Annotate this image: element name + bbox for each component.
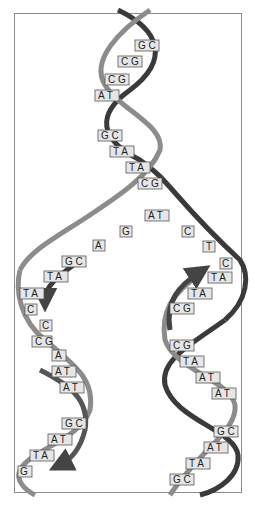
svg-text:C: C: [27, 304, 34, 315]
base-pair: A T: [48, 434, 72, 445]
svg-text:G: G: [122, 226, 130, 237]
svg-text:T A: T A: [47, 271, 62, 282]
svg-text:A T: A T: [55, 366, 70, 377]
parent-base-pairs: G C C G C G A T G C T A T A C G A T: [95, 40, 169, 221]
svg-text:A T: A T: [215, 388, 230, 399]
base-pair: G C: [98, 130, 122, 141]
base-pair: T A: [30, 450, 54, 461]
svg-text:T A: T A: [129, 162, 144, 173]
base-pair: G C: [62, 256, 86, 267]
svg-text:G C: G C: [138, 40, 156, 51]
svg-text:C: C: [184, 226, 191, 237]
svg-text:C G: C G: [173, 340, 191, 351]
svg-text:A: A: [55, 350, 62, 361]
svg-text:G C: G C: [65, 256, 83, 267]
svg-text:G C: G C: [101, 130, 119, 141]
base: G: [120, 226, 132, 237]
svg-text:C G: C G: [108, 74, 126, 85]
svg-text:A T: A T: [63, 382, 78, 393]
base-pair: A T: [95, 90, 119, 101]
base: G: [18, 466, 32, 477]
dna-replication-diagram: G C C G C G A T G C T A T A C G A T G A …: [0, 0, 255, 507]
svg-text:T: T: [206, 241, 212, 252]
svg-text:A T: A T: [51, 434, 66, 445]
base-pair: C G: [138, 178, 162, 189]
base: T: [203, 241, 215, 252]
base-pair: T A: [20, 288, 44, 299]
base-pair: C G: [170, 303, 194, 314]
svg-text:C: C: [42, 320, 49, 331]
svg-text:T A: T A: [23, 288, 38, 299]
svg-text:A T: A T: [148, 210, 163, 221]
svg-text:A: A: [95, 240, 102, 251]
svg-text:G C: G C: [217, 426, 235, 437]
base-pair: T A: [110, 146, 134, 157]
svg-text:T A: T A: [113, 146, 128, 157]
svg-text:C G: C G: [173, 303, 191, 314]
right-daughter-base-pairs: T A T A C G C G T A A T A T G C A T T A …: [170, 272, 238, 485]
base-pair: G C: [135, 40, 159, 51]
base-pair: A T: [52, 366, 76, 377]
svg-text:G C: G C: [65, 418, 83, 429]
svg-text:A T: A T: [207, 442, 222, 453]
base: A: [93, 240, 105, 251]
base-pair: T A: [188, 288, 212, 299]
base-pair: C G: [105, 74, 129, 85]
base-pair: G C: [214, 426, 238, 437]
svg-text:T A: T A: [191, 288, 206, 299]
base-pair: A T: [196, 372, 220, 383]
base: A: [52, 350, 66, 361]
base-pair: C G: [170, 340, 194, 351]
base-pair: T A: [180, 356, 204, 367]
svg-text:T A: T A: [211, 272, 226, 283]
base: C: [25, 304, 37, 315]
base: C: [40, 320, 52, 331]
svg-text:C: C: [222, 258, 229, 269]
base-pair: A T: [60, 382, 84, 393]
base-pair: G C: [170, 474, 194, 485]
svg-text:A T: A T: [199, 372, 214, 383]
base-pair: A T: [212, 388, 236, 399]
svg-text:T A: T A: [33, 450, 48, 461]
left-daughter-base-pairs: G C T A T A C C C G A A T A T G C A T T …: [18, 256, 86, 477]
base-pair: T A: [186, 458, 210, 469]
base-pair: A T: [204, 442, 228, 453]
base: C: [182, 226, 194, 237]
base-pair: T A: [126, 162, 150, 173]
base-pair: T A: [208, 272, 232, 283]
svg-text:A T: A T: [98, 90, 113, 101]
base-pair: T A: [44, 271, 68, 282]
base-pair: A T: [145, 210, 169, 221]
svg-text:C G: C G: [121, 56, 139, 67]
svg-text:G: G: [20, 466, 28, 477]
svg-text:T A: T A: [189, 458, 204, 469]
svg-text:G C: G C: [173, 474, 191, 485]
base-pair: C G: [118, 56, 142, 67]
base-pair: C G: [32, 336, 53, 347]
base: C: [220, 258, 232, 269]
svg-text:C G: C G: [141, 178, 159, 189]
svg-text:T A: T A: [183, 356, 198, 367]
svg-text:C G: C G: [35, 336, 53, 347]
base-pair: G C: [62, 418, 86, 429]
